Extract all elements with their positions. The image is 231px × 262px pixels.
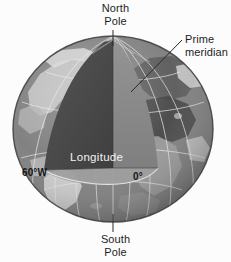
label-south-pole-line2: Pole bbox=[0, 246, 231, 259]
label-prime-meridian-line2: meridian bbox=[185, 46, 228, 59]
label-south-pole-line1: South bbox=[0, 233, 231, 246]
label-north-pole-line1: North bbox=[0, 2, 231, 15]
label-prime-meridian-line1: Prime bbox=[185, 33, 228, 46]
label-longitude-0: 0° bbox=[133, 171, 143, 184]
label-north-pole: North Pole bbox=[0, 2, 231, 27]
label-longitude: Longitude bbox=[70, 151, 123, 164]
label-north-pole-line2: Pole bbox=[0, 15, 231, 28]
longitude-globe-figure: North Pole Prime meridian South Pole Lon… bbox=[0, 0, 231, 262]
label-south-pole: South Pole bbox=[0, 233, 231, 258]
label-longitude-60w: 60°W bbox=[22, 167, 47, 180]
label-prime-meridian: Prime meridian bbox=[185, 33, 228, 58]
